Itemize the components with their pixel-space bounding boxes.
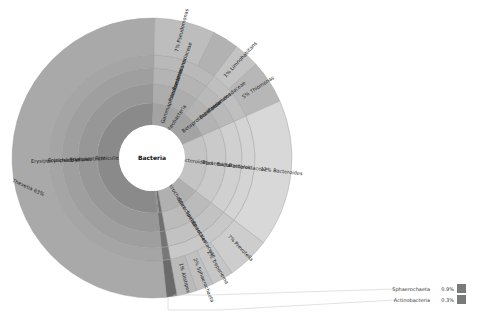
center-label[interactable]: Bacteria [138, 154, 166, 161]
legend-label: Sphaerochaeta [392, 286, 430, 293]
legend-label: Actinobacteria [394, 297, 430, 303]
legend-value: 0.9% [441, 286, 454, 292]
legend-leader-line [168, 298, 395, 310]
legend-swatch[interactable] [457, 284, 466, 293]
legend-swatch[interactable] [457, 295, 466, 304]
sunburst-chart: FirmicutesProteobacteriaBacteroidetesSpi… [0, 0, 479, 322]
legend-value: 0.3% [441, 297, 454, 303]
